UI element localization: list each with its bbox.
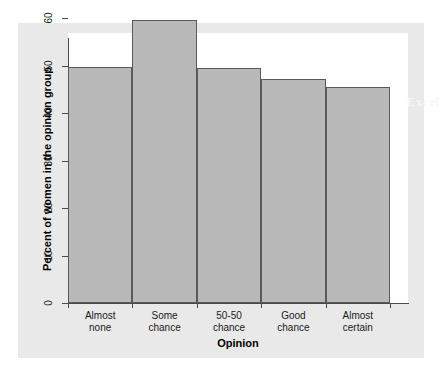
- x-axis-tick: [68, 303, 69, 308]
- bar: [132, 20, 196, 303]
- bar: [261, 79, 325, 303]
- x-axis-title: Opinion: [68, 337, 408, 349]
- x-axis-tick: [261, 303, 262, 308]
- y-axis-tick: [62, 18, 68, 19]
- bar: [197, 68, 261, 303]
- y-axis-tick-label: 60: [43, 7, 55, 29]
- x-axis-tick: [390, 303, 391, 308]
- x-axis-line: [62, 303, 409, 304]
- bar: [326, 87, 390, 303]
- watermark-text: Excel: [388, 91, 441, 113]
- chart-figure: Excel 0102030405060 AlmostnoneSomechance…: [0, 0, 441, 378]
- category-label-line: Almost: [318, 310, 398, 322]
- x-axis-category-label: Almostcertain: [318, 310, 398, 334]
- bar: [68, 67, 132, 303]
- x-axis-tick: [326, 303, 327, 308]
- x-axis-tick: [197, 303, 198, 308]
- category-label-line: certain: [318, 322, 398, 334]
- x-axis-tick: [132, 303, 133, 308]
- y-axis-title: Percent of women in the opinion group: [41, 34, 53, 304]
